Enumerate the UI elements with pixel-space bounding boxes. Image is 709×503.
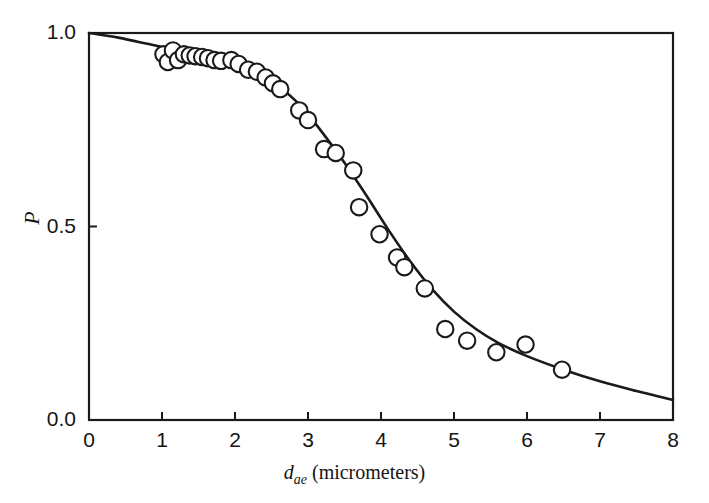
x-tick-label: 7	[580, 429, 620, 450]
data-point	[554, 361, 570, 377]
data-point	[300, 112, 316, 128]
x-tick-label: 0	[69, 429, 109, 450]
data-point	[328, 145, 344, 161]
data-point	[437, 321, 453, 337]
x-axis-title-symbol: d	[284, 461, 294, 483]
data-point	[351, 199, 367, 215]
x-tick-label: 6	[507, 429, 547, 450]
y-tick-label: 0.0	[47, 408, 76, 429]
x-axis-title: dae (micrometers)	[0, 461, 709, 488]
x-tick-label: 5	[434, 429, 474, 450]
penetration-chart-figure: 0.00.51.0 012345678 P dae (micrometers)	[0, 0, 709, 503]
data-point	[488, 344, 504, 360]
data-point	[396, 259, 412, 275]
data-point	[459, 332, 475, 348]
y-tick-label: 0.5	[47, 215, 76, 236]
data-point	[272, 81, 288, 97]
data-point	[371, 226, 387, 242]
data-point	[517, 336, 533, 352]
fit-curve	[89, 33, 673, 400]
data-point	[345, 162, 361, 178]
x-axis-title-subscript: ae	[294, 472, 307, 487]
x-tick-label: 2	[215, 429, 255, 450]
y-tick-label: 1.0	[47, 21, 76, 42]
x-tick-label: 1	[142, 429, 182, 450]
y-axis-title: P	[19, 198, 45, 238]
x-tick-label: 3	[288, 429, 328, 450]
data-point	[417, 280, 433, 296]
x-tick-label: 4	[361, 429, 401, 450]
x-axis-title-units: (micrometers)	[312, 461, 425, 483]
x-tick-label: 8	[653, 429, 693, 450]
data-markers	[155, 42, 570, 378]
